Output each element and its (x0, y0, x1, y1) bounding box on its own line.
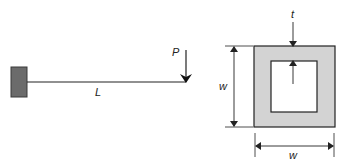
height-label: w (219, 80, 228, 92)
load-label: P (172, 46, 180, 58)
hollow-square-section: t w w (219, 8, 335, 161)
thickness-label: t (291, 8, 295, 20)
cantilever-beam: P L (11, 46, 186, 98)
fixed-wall-support (11, 67, 27, 97)
length-label: L (95, 86, 101, 98)
width-label: w (289, 149, 298, 161)
cantilever-diagram: P L t w w (0, 0, 349, 165)
inner-square (271, 61, 317, 112)
